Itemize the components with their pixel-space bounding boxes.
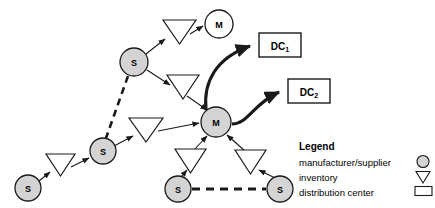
legend: Legend manufacturer/supplier inventory d… xyxy=(299,141,432,198)
node-s-mid[interactable]: S xyxy=(90,138,116,164)
edge-m-center-to-dc1-thick xyxy=(206,46,250,110)
distribution-center-dc2[interactable]: DC2 xyxy=(288,79,330,103)
edge-s-upper-to-inv-top xyxy=(146,39,165,54)
circle-icon xyxy=(417,156,429,168)
node-s-left-label: S xyxy=(25,184,31,194)
legend-title: Legend xyxy=(299,141,335,152)
edge-inv-far-left-to-s-mid xyxy=(71,158,89,167)
node-s-mid-label: S xyxy=(100,147,106,157)
legend-label-inventory: inventory xyxy=(299,172,338,183)
edge-inv-bl-to-m-center xyxy=(194,136,207,150)
edge-m-center-to-dc2-thick xyxy=(232,92,279,124)
node-m-top[interactable]: M xyxy=(205,10,233,38)
node-m-center[interactable]: M xyxy=(201,107,231,137)
inventory-triangle-bottom-right[interactable] xyxy=(235,150,266,174)
supply-chain-diagram: DC1 DC2 M S M S xyxy=(0,0,435,208)
node-s-left[interactable]: S xyxy=(15,175,41,201)
dc1-label-subscript: 1 xyxy=(285,46,289,53)
diagram-canvas: DC1 DC2 M S M S xyxy=(0,0,435,208)
dc2-label-subscript: 2 xyxy=(314,92,318,99)
inventory-layer xyxy=(46,20,266,176)
edge-inv-top-to-m-top xyxy=(190,26,203,34)
node-m-center-label: M xyxy=(212,118,220,128)
node-s-bottom-left[interactable]: S xyxy=(165,176,191,202)
edge-inv-upper2-to-m-center xyxy=(187,96,207,110)
node-s-bottom-right[interactable]: S xyxy=(267,176,293,202)
node-m-top-label: M xyxy=(215,20,223,30)
edge-s-mid-to-inv-left xyxy=(114,136,133,146)
dc1-label-text: DC xyxy=(271,41,285,52)
node-s-upper[interactable]: S xyxy=(120,48,148,76)
inventory-triangle-bottom-left[interactable] xyxy=(175,149,206,173)
rectangle-icon xyxy=(415,187,432,196)
legend-label-distribution-center: distribution center xyxy=(299,187,374,198)
edge-layer xyxy=(39,26,279,189)
inventory-triangle-left[interactable] xyxy=(129,118,163,142)
distribution-center-layer: DC1 DC2 xyxy=(259,33,330,103)
node-s-bottom-right-label: S xyxy=(277,185,283,195)
node-s-bottom-left-label: S xyxy=(175,185,181,195)
inventory-triangle-far-left[interactable] xyxy=(46,154,75,176)
distribution-center-dc1[interactable]: DC1 xyxy=(259,33,301,57)
edge-s-upper-to-s-mid-dashed xyxy=(106,76,128,138)
inventory-triangle-top[interactable] xyxy=(163,20,196,44)
node-s-upper-label: S xyxy=(131,58,137,68)
dc2-label-text: DC xyxy=(300,87,314,98)
edge-s-br-to-inv-br xyxy=(259,170,275,178)
inventory-triangle-upper[interactable] xyxy=(167,75,199,99)
edge-s-left-to-inv-far-left xyxy=(39,172,50,181)
edge-inv-left-to-m-center xyxy=(158,123,199,131)
edge-inv-br-to-m-center xyxy=(227,135,245,151)
legend-label-manufacturer-supplier: manufacturer/supplier xyxy=(299,157,391,168)
edge-s-upper-to-inv-upper2 xyxy=(147,70,170,85)
triangle-down-icon xyxy=(416,172,430,184)
